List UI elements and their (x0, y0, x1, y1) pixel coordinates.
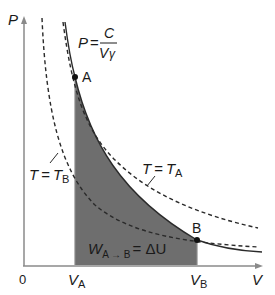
ta-leader-line (147, 176, 155, 186)
isotherm-tb-label: T=TB (29, 166, 69, 185)
isotherm-ta-label: T=TA (142, 160, 183, 179)
tb-leader-line (50, 153, 58, 163)
point-a-label: A (82, 69, 92, 85)
va-label: VA (68, 271, 86, 290)
point-b-marker (194, 237, 200, 243)
vb-label: VB (190, 271, 207, 290)
x-axis-arrow-icon (255, 263, 263, 269)
svg-text:γ: γ (109, 47, 116, 61)
point-b-label: B (192, 220, 201, 236)
point-a-marker (72, 74, 78, 80)
svg-text:P: P (78, 34, 88, 51)
y-axis-label: P (8, 11, 18, 28)
svg-text:=: = (90, 34, 99, 51)
origin-label: 0 (19, 272, 26, 287)
pv-diagram: A B P V 0 VA VB P = C V γ T=TB T=TA WA →… (0, 0, 275, 295)
x-axis-label: V (252, 271, 264, 288)
adiabat-formula: P = C V γ (78, 25, 117, 61)
svg-text:C: C (104, 25, 115, 41)
y-axis-arrow-icon (21, 16, 27, 24)
